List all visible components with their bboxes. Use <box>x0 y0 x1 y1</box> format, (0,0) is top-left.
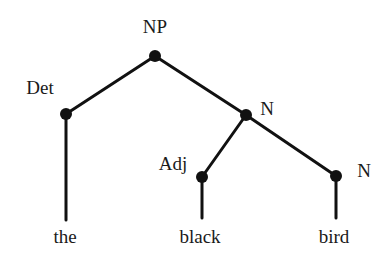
node-dot-n-right <box>330 170 342 182</box>
node-label-n: N <box>260 98 274 119</box>
node-dot-det <box>60 108 72 120</box>
node-label-det: Det <box>26 77 54 98</box>
leaf-word-bird: bird <box>319 226 350 247</box>
leaf-word-black: black <box>179 226 221 247</box>
node-label-adj: Adj <box>159 153 188 174</box>
node-label-n-right: N <box>357 160 371 181</box>
edge-n-adj <box>202 115 246 177</box>
syntax-tree-diagram: NP Det N Adj N the black bird <box>0 0 387 266</box>
node-dot-adj <box>196 171 208 183</box>
node-dot-np <box>149 50 161 62</box>
leaf-word-the: the <box>53 226 76 247</box>
edge-np-n <box>155 56 246 115</box>
edge-n-n <box>246 115 336 176</box>
node-dot-n <box>240 109 252 121</box>
edge-np-det <box>66 56 155 114</box>
node-label-np: NP <box>143 16 167 37</box>
